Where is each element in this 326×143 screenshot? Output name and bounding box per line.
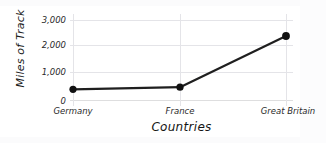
y-axis-title: Miles of Track [14, 1, 27, 97]
series-line [73, 36, 286, 89]
x-tick-label-germany: Germany [40, 106, 106, 116]
data-point-great-britain [282, 32, 290, 40]
x-axis-title: Countries [70, 120, 293, 134]
y-tick-label-3000: 3,000 [30, 15, 66, 25]
line-chart: Miles of Track 0 1,000 2,000 3,000 Germa… [0, 0, 326, 143]
series-miles-of-track [70, 14, 293, 106]
data-point-germany [69, 86, 76, 93]
data-point-france [176, 84, 183, 91]
x-tick-label-france: France [150, 106, 210, 116]
y-tick-label-1000: 1,000 [30, 67, 66, 77]
x-tick-label-great-britain: Great Britain [250, 106, 326, 116]
plot-area [70, 14, 293, 106]
y-tick-label-2000: 2,000 [30, 40, 66, 50]
y-tick-label-0: 0 [30, 96, 66, 106]
